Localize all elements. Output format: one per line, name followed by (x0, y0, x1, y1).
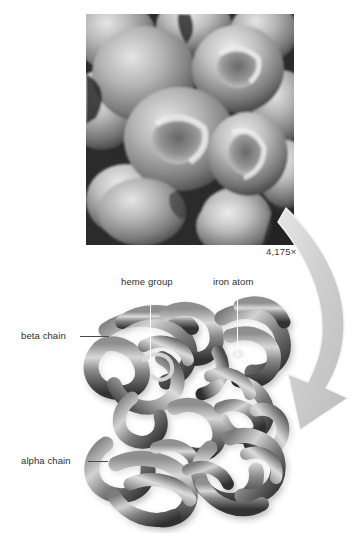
magnification-label: 4,175× (266, 246, 297, 257)
leader-line-heme-group (150, 292, 151, 362)
hemoglobin-molecule (70, 288, 310, 533)
leader-line-alpha-chain (88, 461, 108, 462)
callout-iron-atom: iron atom (213, 276, 254, 287)
leader-line-iron-atom (237, 292, 238, 356)
hemoglobin-figure: 4,175× (0, 0, 354, 538)
callout-alpha-chain: alpha chain (21, 455, 71, 466)
callout-heme-group: heme group (121, 276, 173, 287)
leader-line-beta-chain (80, 336, 109, 337)
red-blood-cells-sem (86, 14, 294, 245)
callout-beta-chain: beta chain (21, 330, 66, 341)
